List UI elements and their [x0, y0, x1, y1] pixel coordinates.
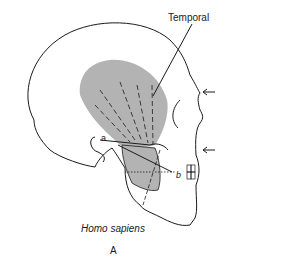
skull-drawing	[0, 0, 291, 257]
point-a-label: a	[101, 133, 106, 143]
panel-label: A	[110, 245, 117, 256]
skull-diagram: Temporal a b Homo sapiens A	[0, 0, 291, 257]
teeth	[187, 165, 195, 179]
temporal-muscle	[80, 60, 168, 147]
orbit-outline	[173, 100, 180, 128]
temporal-label: Temporal	[168, 12, 209, 23]
species-caption: Homo sapiens	[81, 223, 145, 234]
arrow-brow	[203, 89, 215, 95]
point-b-label: b	[176, 170, 181, 180]
temporal-leader-line	[153, 24, 192, 96]
arrow-nose-base	[203, 147, 215, 153]
